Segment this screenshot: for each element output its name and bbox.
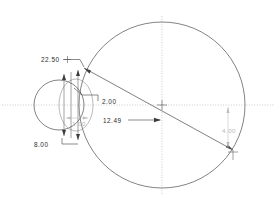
dim-label-4-00: 4.00 [222, 127, 236, 134]
arrow-head-icon-left-bottom [62, 130, 66, 136]
cad-drawing-canvas: 22.50 2.00 12.49 8.00 1.00 4.00 [0, 0, 277, 203]
dim-label-1-00: 1.00 [72, 120, 86, 127]
arrow-head-icon-1-00-left [66, 116, 71, 119]
dim-label-2-00: 2.00 [102, 98, 116, 105]
arrow-head-icon-4-00-top [226, 107, 229, 113]
arrow-head-icon-diagonal-end [226, 144, 233, 150]
dim-label-8-00: 8.00 [34, 141, 48, 148]
cad-drawing-svg: 22.50 2.00 12.49 8.00 1.00 4.00 [0, 0, 277, 203]
arrow-head-icon-12-49 [154, 118, 161, 122]
arrow-head-icon-left-top [62, 74, 66, 80]
arrow-head-icon-right-bottom [76, 134, 80, 140]
dim-label-12-49: 12.49 [103, 117, 122, 124]
tangent-diagonal-line [84, 68, 233, 150]
dim-leader-angle-upper-left-kink [80, 60, 84, 68]
arrow-head-icon-right-top [76, 70, 80, 76]
dim-label-angle-upper-left: 22.50 [41, 56, 60, 63]
